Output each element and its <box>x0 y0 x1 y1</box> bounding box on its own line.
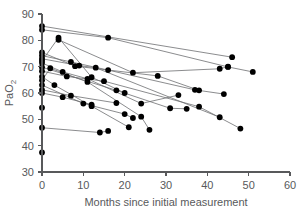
data-point <box>147 127 153 133</box>
data-point <box>176 92 182 98</box>
x-tick-label: 50 <box>243 179 255 191</box>
data-point <box>122 111 128 117</box>
data-point <box>76 63 82 69</box>
data-point <box>64 74 70 80</box>
data-point <box>56 35 62 41</box>
data-point <box>47 65 53 71</box>
data-point <box>93 65 99 71</box>
data-point <box>105 128 111 134</box>
data-point <box>122 90 128 96</box>
y-tick-label: 40 <box>22 140 34 152</box>
data-point <box>130 115 136 121</box>
x-tick-label: 0 <box>39 179 45 191</box>
data-point <box>217 66 223 72</box>
data-point <box>105 67 111 73</box>
data-point <box>217 114 223 120</box>
data-point <box>105 35 111 41</box>
data-point <box>126 124 132 130</box>
data-point <box>184 106 190 112</box>
data-point <box>221 91 227 97</box>
y-tick-label: 60 <box>22 87 34 99</box>
data-point <box>225 64 231 70</box>
data-point <box>85 79 91 85</box>
y-axis-title: PaO2 <box>3 79 18 106</box>
data-point <box>192 87 198 93</box>
data-point <box>196 104 202 110</box>
data-point <box>229 54 235 60</box>
data-point <box>89 102 95 108</box>
x-tick-label: 20 <box>119 179 131 191</box>
y-tick-label: 30 <box>22 166 34 178</box>
data-point <box>68 93 74 99</box>
data-point <box>238 126 244 132</box>
y-tick-label: 90 <box>22 8 34 20</box>
data-point <box>52 82 58 88</box>
data-point <box>155 73 161 79</box>
data-point <box>101 78 107 84</box>
x-tick-label: 10 <box>77 179 89 191</box>
data-point <box>250 69 256 75</box>
data-point <box>114 100 120 106</box>
data-point <box>138 101 144 107</box>
y-tick-label: 80 <box>22 34 34 46</box>
x-tick-label: 60 <box>284 179 296 191</box>
data-point <box>114 87 120 93</box>
data-point <box>138 114 144 120</box>
x-tick-label: 40 <box>201 179 213 191</box>
x-axis-title: Months since initial measurement <box>84 196 247 208</box>
y-tick-label: 70 <box>22 61 34 73</box>
y-tick-label: 50 <box>22 113 34 125</box>
data-point <box>68 59 74 65</box>
data-point <box>60 69 66 75</box>
data-point <box>167 105 173 111</box>
data-point <box>97 130 103 136</box>
axis-labels-layer: 010203040506030405060708090Months since … <box>3 8 296 208</box>
x-tick-label: 30 <box>160 179 172 191</box>
chart-plot-area: 010203040506030405060708090Months since … <box>0 0 306 216</box>
series-line <box>42 52 199 90</box>
data-point <box>80 101 86 107</box>
chart-figure: 010203040506030405060708090Months since … <box>0 0 306 216</box>
data-point <box>60 94 66 100</box>
data-point <box>130 70 136 76</box>
